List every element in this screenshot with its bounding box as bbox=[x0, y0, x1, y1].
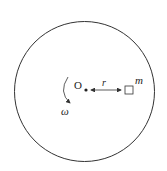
rotation-arrow-icon bbox=[63, 77, 70, 103]
disk-circle bbox=[15, 22, 155, 162]
center-dot bbox=[84, 88, 87, 91]
center-label: O bbox=[74, 79, 82, 91]
mass-label: m bbox=[135, 74, 143, 86]
rotating-disk-diagram: ω O r m bbox=[0, 0, 167, 171]
omega-label: ω bbox=[61, 105, 69, 117]
mass-block bbox=[125, 86, 133, 94]
radius-label: r bbox=[102, 77, 106, 88]
